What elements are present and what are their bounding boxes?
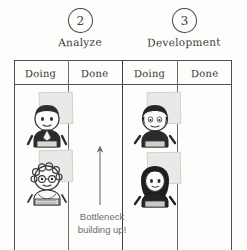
kanban-board: 2 Analyze 3 Development Doing Done Doing… (0, 0, 247, 250)
step-number-2: 2 (76, 14, 84, 26)
step-number-circle-2: 2 (67, 8, 93, 34)
bottleneck-arrow-up-icon (92, 143, 108, 207)
card-analyze-doing-2[interactable] (22, 150, 76, 206)
person-bowl-cut-hair-avatar (132, 100, 178, 148)
card-development-doing-2[interactable] (130, 152, 184, 208)
bottleneck-line-2: building up! (47, 223, 157, 236)
step-label-analyze: Analyze (48, 36, 112, 49)
step-header-analyze: 2 Analyze (48, 8, 112, 48)
bottleneck-line-1: Bottleneck (47, 210, 157, 223)
header-divider-rule (14, 84, 232, 85)
column-header-development-done: Done (177, 64, 232, 82)
bottleneck-annotation: Bottleneck building up! (47, 210, 157, 236)
card-analyze-doing-1[interactable] (22, 92, 76, 148)
column-header-development-doing: Doing (122, 64, 177, 82)
step-number-circle-3: 3 (171, 8, 197, 34)
card-development-doing-1[interactable] (130, 92, 184, 148)
step-label-development: Development (143, 35, 225, 48)
step-number-3: 3 (180, 14, 188, 26)
step-header-development: 3 Development (143, 8, 225, 48)
person-short-dark-hair-avatar (24, 100, 70, 148)
column-header-analyze-doing: Doing (14, 64, 68, 82)
person-long-dark-hair-avatar (132, 160, 178, 208)
person-curly-hair-glasses-avatar (24, 158, 70, 206)
column-header-analyze-done: Done (68, 64, 122, 82)
